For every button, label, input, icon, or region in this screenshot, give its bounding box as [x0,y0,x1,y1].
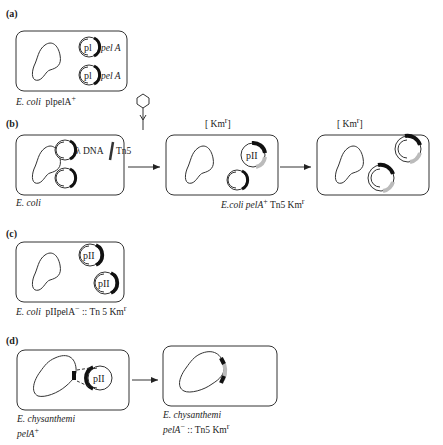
gene-a2-label: pel A [100,71,121,81]
lambda-dna-label: λ DNA [76,146,104,156]
phage-icon [137,94,149,108]
diagram-canvas: pl pl pII pII pII pII pel A pel A λ DNA … [0,0,443,445]
plasmid-a1-label: pl [84,42,92,53]
plasmid-c1-label: pII [83,250,95,261]
plasmid-d-label: pII [93,373,105,384]
caption-d-left: E. chysanthemipelA+ [17,413,75,440]
caption-b-left: E. coli [16,198,41,208]
plasmid-a2-label: pl [84,70,92,81]
caption-a: E. coli plpelA+ [16,94,76,107]
tn5-label: Tn5 [116,146,132,156]
gene-a1-label: pel A [100,43,121,53]
plasmid-b2-label: pII [246,150,258,161]
plasmid-c2-label: pII [98,278,110,289]
caption-d-right: E. chysanthemipelA− :: Tn5 Kmr [163,409,229,436]
selection-km-2: [ Kmr] [337,116,363,129]
cell-a [16,31,127,91]
caption-b-mid: E.coli pelA+ Tn5 Kmr [221,197,304,210]
chromosome-a [32,43,60,80]
cell-d2 [163,346,277,406]
caption-c: E. coli pIIpelA− :: Tn 5 Kmr [16,304,126,317]
selection-km-1: [ Kmr] [205,116,231,129]
